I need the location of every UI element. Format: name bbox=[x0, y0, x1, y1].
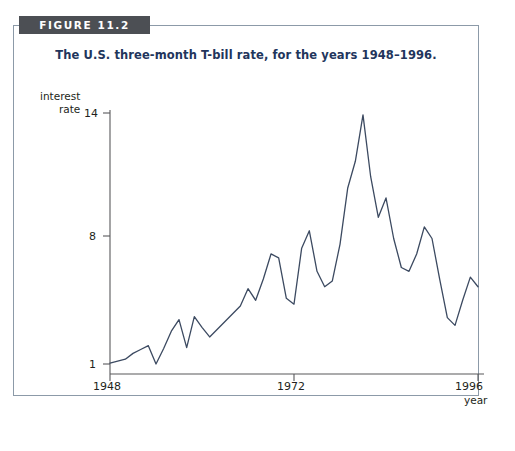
y-axis-ticks bbox=[103, 113, 110, 364]
axis-lines bbox=[110, 110, 484, 374]
tbill-rate-line bbox=[110, 115, 478, 364]
figure-banner: FIGURE 11.2 bbox=[19, 16, 150, 34]
figure-banner-label: FIGURE 11.2 bbox=[39, 19, 130, 31]
plot-area bbox=[0, 0, 515, 451]
x-axis-ticks bbox=[110, 374, 478, 381]
